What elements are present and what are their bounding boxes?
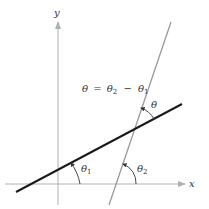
diagram-canvas: y x θ1 θ2 θ θ = θ2 − θ1 bbox=[0, 0, 209, 209]
line-1-thick bbox=[16, 104, 182, 192]
theta1-arc bbox=[71, 163, 80, 184]
theta2-label: θ2 bbox=[137, 163, 148, 176]
equation-label: θ = θ2 − θ1 bbox=[82, 83, 149, 96]
angle-between-lines-diagram: y x θ1 θ2 θ θ = θ2 − θ1 bbox=[0, 0, 209, 209]
y-axis-label: y bbox=[53, 7, 60, 18]
x-axis-label: x bbox=[189, 178, 195, 189]
theta1-label: θ1 bbox=[81, 163, 92, 176]
theta-label: θ bbox=[151, 99, 157, 110]
theta2-arc bbox=[123, 164, 136, 184]
line-2-thin bbox=[109, 22, 171, 205]
